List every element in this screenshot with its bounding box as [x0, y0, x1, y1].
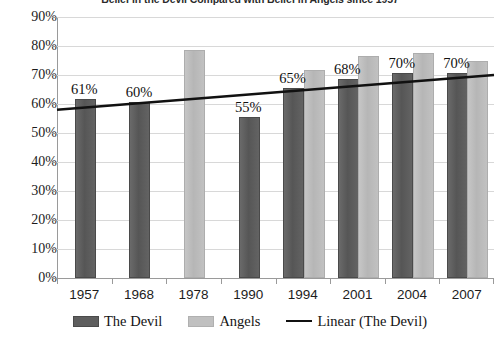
chart-title: Belief in the Devil Compared with Belief… — [0, 0, 500, 7]
legend-label-linear-the-devil: Linear (The Devil) — [317, 313, 427, 329]
data-label-the-devil: 60% — [116, 85, 162, 100]
y-tick-label: 90% — [5, 10, 57, 24]
legend-item-the-devil[interactable]: The Devil — [73, 313, 162, 329]
y-tick-label: 40% — [5, 155, 57, 169]
x-axis: 19571968197819901994200120042007 — [57, 279, 494, 307]
y-tick-label: 70% — [5, 68, 57, 82]
y-tick-label: 0% — [5, 271, 57, 285]
legend-item-angels[interactable]: Angels — [188, 313, 260, 329]
legend-label-the-devil: The Devil — [104, 313, 162, 329]
data-label-the-devil: 65% — [270, 71, 316, 86]
x-tick-mark — [57, 279, 58, 284]
x-tick-mark — [330, 279, 331, 284]
data-label-the-devil: 70% — [379, 56, 425, 71]
x-tick-mark — [276, 279, 277, 284]
x-tick-label: 1994 — [276, 287, 331, 302]
legend-line-icon-linear — [286, 320, 312, 322]
plot-area: 61%60%55%65%68%70%70% — [57, 17, 494, 278]
chart-container: Belief in the Devil Compared with Belief… — [0, 0, 500, 342]
y-tick-label: 50% — [5, 126, 57, 140]
y-tick-label: 60% — [5, 97, 57, 111]
legend-label-angels: Angels — [219, 313, 260, 329]
x-tick-mark — [493, 279, 494, 284]
x-tick-label: 1990 — [221, 287, 276, 302]
data-label-the-devil: 55% — [225, 100, 271, 115]
x-tick-label: 1957 — [57, 287, 112, 302]
x-tick-mark — [439, 279, 440, 284]
data-label-the-devil: 70% — [433, 56, 479, 71]
x-tick-mark — [385, 279, 386, 284]
y-tick-label: 30% — [5, 184, 57, 198]
legend-item-linear-the-devil[interactable]: Linear (The Devil) — [286, 313, 427, 329]
x-tick-label: 2007 — [439, 287, 494, 302]
y-tick-label: 10% — [5, 242, 57, 256]
y-tick-label: 20% — [5, 213, 57, 227]
x-tick-label: 2001 — [330, 287, 385, 302]
y-axis: 90%80%70%60%50%40%30%20%10%0% — [0, 17, 57, 279]
y-tick-label: 80% — [5, 39, 57, 53]
x-tick-label: 2004 — [385, 287, 440, 302]
x-tick-label: 1978 — [166, 287, 221, 302]
chart-legend: The Devil Angels Linear (The Devil) — [0, 310, 500, 332]
x-tick-mark — [221, 279, 222, 284]
data-label-the-devil: 68% — [324, 62, 370, 77]
data-label-the-devil: 61% — [61, 82, 107, 97]
x-tick-mark — [166, 279, 167, 284]
x-tick-label: 1968 — [112, 287, 167, 302]
legend-swatch-icon-angels — [188, 316, 214, 327]
x-tick-mark — [112, 279, 113, 284]
legend-swatch-icon-the-devil — [73, 316, 99, 327]
trendline-linear-the-devil — [57, 17, 494, 278]
